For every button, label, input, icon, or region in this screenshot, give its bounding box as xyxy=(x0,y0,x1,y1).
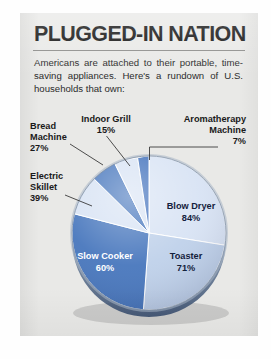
infographic-panel: PLUGGED-IN NATION Americans are attached… xyxy=(20,13,258,336)
slice-label-slow-cooker: Slow Cooker 60% xyxy=(63,251,147,274)
callout-electric-skillet-name-1: Electric xyxy=(30,171,100,182)
callout-aromatherapy-value: 7% xyxy=(148,136,246,147)
slice-label-blow-dryer-value: 84% xyxy=(148,213,234,225)
callout-aromatherapy-machine: Aromatherapy Machine 7% xyxy=(148,114,246,147)
callout-bread-machine: Bread Machine 27% xyxy=(30,121,100,154)
callout-bread-machine-name-1: Bread xyxy=(30,121,100,132)
callout-electric-skillet-value: 39% xyxy=(30,193,100,204)
callout-bread-machine-name-2: Machine xyxy=(30,132,100,143)
slice-label-slow-cooker-name: Slow Cooker xyxy=(63,251,147,263)
callout-aromatherapy-name-2: Machine xyxy=(148,125,246,136)
slice-label-blow-dryer-name: Blow Dryer xyxy=(148,201,234,213)
slice-label-toaster-value: 71% xyxy=(150,263,222,275)
pie-chart: Indoor Grill 15% Aromatherapy Machine 7%… xyxy=(20,13,258,336)
slice-label-toaster-name: Toaster xyxy=(150,251,222,263)
callout-electric-skillet-name-2: Skillet xyxy=(30,182,100,193)
slice-label-toaster: Toaster 71% xyxy=(150,251,222,274)
slice-label-blow-dryer: Blow Dryer 84% xyxy=(148,201,234,224)
callout-aromatherapy-name-1: Aromatherapy xyxy=(148,114,246,125)
callout-bread-machine-value: 27% xyxy=(30,143,100,154)
infographic-card: PLUGGED-IN NATION Americans are attached… xyxy=(0,0,271,359)
callout-electric-skillet: Electric Skillet 39% xyxy=(30,171,100,204)
slice-label-slow-cooker-value: 60% xyxy=(63,263,147,275)
